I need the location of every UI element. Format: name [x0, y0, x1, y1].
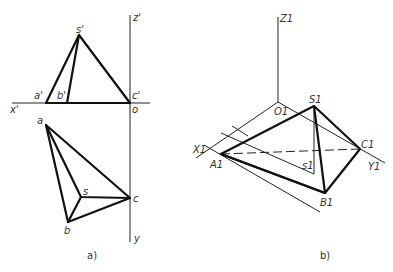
pyramid-edge-s1b1 [314, 106, 325, 193]
label-s-prime: s' [76, 24, 84, 35]
label-c: c [133, 193, 139, 204]
label-z1: Z1 [279, 13, 293, 24]
label-x1: X1 [192, 144, 206, 155]
label-origin-o: o [132, 104, 138, 115]
label-c1: C1 [361, 139, 374, 150]
label-o1: O1 [274, 106, 288, 117]
label-x-prime: x' [9, 104, 19, 115]
y1-axis-line [278, 102, 385, 163]
label-b1: B1 [320, 197, 333, 208]
label-b: b [64, 225, 70, 236]
caption-a: a) [87, 250, 97, 261]
label-a: a [37, 115, 43, 126]
hidden-edge-a1c1 [221, 149, 360, 154]
label-y1: Y1 [368, 161, 380, 172]
projection-diagram: z' x' o y s' a' b' c' a s b c a) Z1 O1 X… [0, 0, 393, 272]
figure-a-orthographic [12, 15, 150, 242]
label-s1-lower: s1 [302, 160, 314, 171]
figure-b-axonometric [196, 17, 385, 212]
label-s1: S1 [309, 94, 322, 105]
label-y: y [133, 233, 141, 244]
top-view-base [46, 125, 130, 222]
label-a-prime: a' [34, 90, 43, 101]
label-s: s [83, 186, 88, 197]
label-a1: A1 [209, 159, 223, 170]
label-c-prime: c' [132, 90, 140, 101]
label-z-prime: z' [132, 12, 141, 23]
label-b-prime: b' [57, 90, 66, 101]
caption-b: b) [320, 250, 330, 261]
